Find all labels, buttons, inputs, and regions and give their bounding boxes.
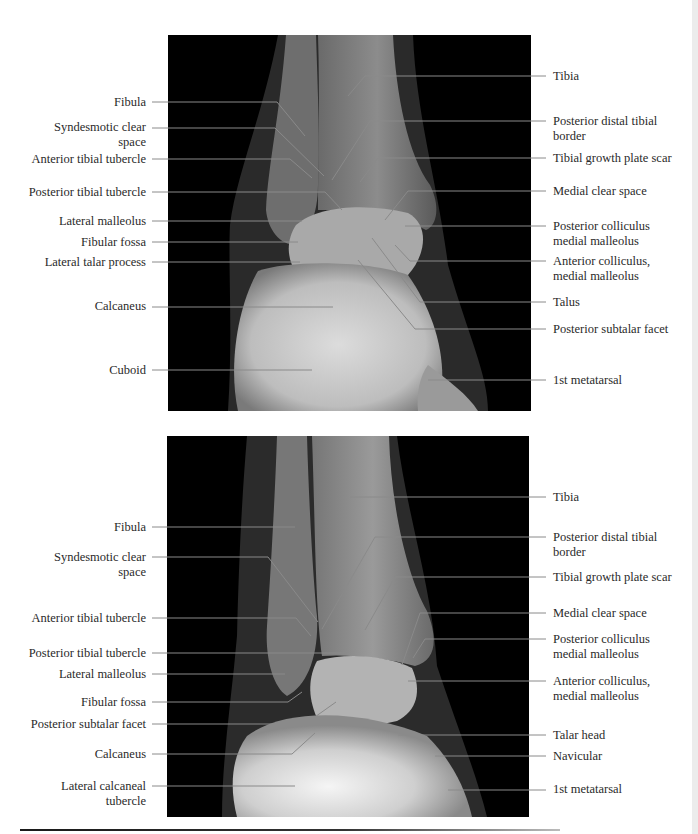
xray-image-top (168, 35, 531, 411)
label-talar-head-bottom: Talar head (553, 728, 605, 743)
label-anterior-colliculus-top: Anterior colliculus, medial malleolus (553, 254, 650, 284)
label-posterior-colliculus-bottom: Posterior colliculus medial malleolus (553, 632, 650, 662)
label-fibula-top: Fibula (114, 95, 146, 110)
label-cuboid-top: Cuboid (109, 363, 146, 378)
label-1st-metatarsal-bottom: 1st metatarsal (553, 782, 622, 797)
label-posterior-distal-tibial-border-bottom: Posterior distal tibial border (553, 530, 657, 560)
label-fibular-fossa-top: Fibular fossa (81, 235, 146, 250)
label-tibia-top: Tibia (553, 69, 579, 84)
page-edge-strip (692, 0, 698, 834)
label-tibia-bottom: Tibia (553, 490, 579, 505)
label-syndesmotic-clear-space-bottom: Syndesmotic clear space (54, 550, 146, 580)
label-1st-metatarsal-top: 1st metatarsal (553, 373, 622, 388)
label-posterior-subtalar-facet-bottom: Posterior subtalar facet (31, 717, 146, 732)
label-anterior-colliculus-bottom: Anterior colliculus, medial malleolus (553, 674, 650, 704)
xray-image-bottom (167, 436, 529, 817)
label-calcaneus-bottom: Calcaneus (95, 747, 146, 762)
label-lateral-calcaneal-tubercle-bottom: Lateral calcaneal tubercle (61, 779, 146, 809)
label-posterior-subtalar-facet-top: Posterior subtalar facet (553, 322, 668, 337)
label-tibial-growth-plate-scar-top: Tibial growth plate scar (553, 151, 672, 166)
label-lateral-malleolus-bottom: Lateral malleolus (59, 667, 146, 682)
label-talus-top: Talus (553, 295, 580, 310)
label-medial-clear-space-top: Medial clear space (553, 184, 647, 199)
label-posterior-distal-tibial-border-top: Posterior distal tibial border (553, 114, 657, 144)
label-medial-clear-space-bottom: Medial clear space (553, 606, 647, 621)
label-fibular-fossa-bottom: Fibular fossa (81, 695, 146, 710)
label-anterior-tibial-tubercle-bottom: Anterior tibial tubercle (31, 611, 146, 626)
label-fibula-bottom: Fibula (114, 520, 146, 535)
label-posterior-colliculus-top: Posterior colliculus medial malleolus (553, 219, 650, 249)
label-posterior-tibial-tubercle-bottom: Posterior tibial tubercle (29, 646, 146, 661)
label-anterior-tibial-tubercle-top: Anterior tibial tubercle (31, 152, 146, 167)
label-posterior-tibial-tubercle-top: Posterior tibial tubercle (29, 185, 146, 200)
label-navicular-bottom: Navicular (553, 749, 602, 764)
label-tibial-growth-plate-scar-bottom: Tibial growth plate scar (553, 570, 672, 585)
label-syndesmotic-clear-space-top: Syndesmotic clear space (54, 120, 146, 150)
bottom-rule-divider (20, 829, 560, 831)
label-lateral-talar-process-top: Lateral talar process (45, 255, 146, 270)
label-lateral-malleolus-top: Lateral malleolus (59, 214, 146, 229)
label-calcaneus-top: Calcaneus (95, 299, 146, 314)
